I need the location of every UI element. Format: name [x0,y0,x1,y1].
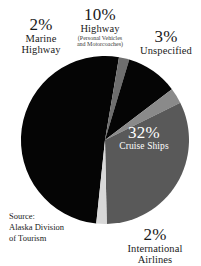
highway-note-line2: and Motorcoaches) [60,41,140,48]
label-cruise-ships: 32% Cruise Ships [102,124,186,152]
international-airlines-percent: 2% [111,226,199,244]
label-unspecified: 3% Unspecified [131,28,201,57]
source-line2: Alaska Division [9,222,64,233]
international-airlines-name-line2: Airlines [111,255,199,266]
unspecified-name: Unspecified [131,46,201,57]
label-international-airlines: 2% International Airlines [111,226,199,265]
international-airlines-name-line1: International [111,244,199,255]
cruise-ships-percent: 32% [102,124,186,142]
highway-name: Highway [60,24,140,35]
cruise-ships-name: Cruise Ships [102,142,186,152]
source-line1: Source: [9,211,64,222]
unspecified-percent: 3% [131,28,201,46]
source-note: Source: Alaska Division of Tourism [9,211,64,244]
label-highway: 10% Highway (Personal Vehicles and Motor… [60,6,140,48]
source-line3: of Tourism [9,233,64,244]
highway-note-line1: (Personal Vehicles [60,35,140,42]
pie-chart-figure: 2% Marine Highway 10% Highway (Personal … [0,0,201,266]
highway-percent: 10% [60,6,140,24]
